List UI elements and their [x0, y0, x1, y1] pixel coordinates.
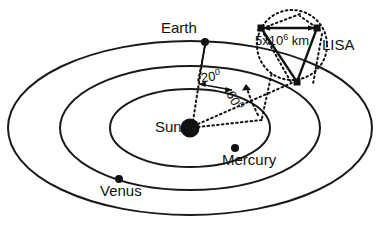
label-venus: Venus	[100, 183, 142, 198]
lisa-spacecraft-3	[294, 79, 301, 86]
arm-length-arrow	[263, 25, 315, 30]
ray-sun-reference	[198, 120, 262, 127]
planet-dot-earth	[201, 38, 209, 46]
lisa-guide-c	[313, 34, 322, 84]
angle-20-degree-sign: 0	[214, 67, 220, 78]
arm-length-mantissa: 5x10	[255, 33, 283, 48]
sun-body	[181, 119, 200, 138]
label-angle-20: 200	[200, 68, 221, 85]
label-arm-length: 5x106 km	[255, 33, 309, 47]
lisa-spacecraft-2	[314, 25, 321, 32]
lisa-orbit-diagram: Earth Sun Mercury Venus LISA 5x106 km 20…	[0, 0, 376, 229]
lisa-spacecraft-1	[258, 25, 265, 32]
label-sun: Sun	[155, 119, 182, 134]
arm-length-unit: km	[288, 33, 309, 48]
label-earth: Earth	[161, 20, 197, 35]
label-lisa: LISA	[322, 37, 355, 52]
label-mercury: Mercury	[222, 152, 276, 167]
